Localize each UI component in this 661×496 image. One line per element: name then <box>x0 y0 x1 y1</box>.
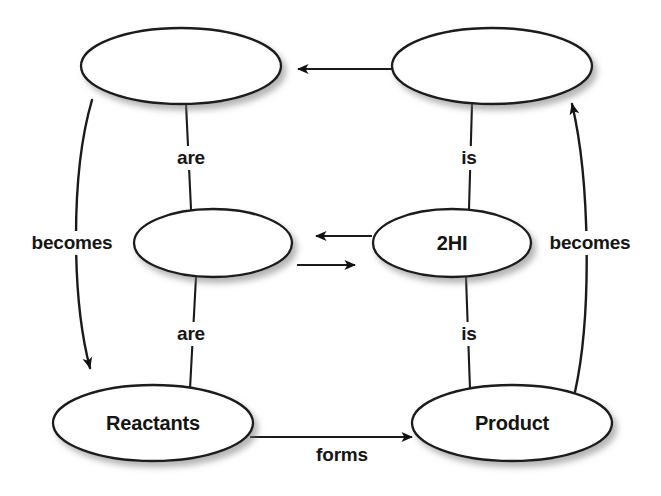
node-ellipse-top-right[interactable] <box>392 28 592 104</box>
node-ellipse-bottom-left[interactable] <box>53 385 253 461</box>
diagram-canvas: 2HI Reactants Product are is are is beco… <box>0 0 661 496</box>
edge-line-bottom-left-are <box>190 277 196 389</box>
edge-line-top-right-is <box>469 104 472 209</box>
node-ellipse-middle-left[interactable] <box>134 209 292 277</box>
node-ellipse-middle-right[interactable] <box>373 209 531 277</box>
edge-line-bottom-right-is <box>466 277 470 389</box>
node-ellipse-top-left[interactable] <box>81 28 281 104</box>
edge-curve-left-becomes <box>76 100 92 368</box>
edge-line-top-left-are <box>186 104 191 209</box>
node-shapes <box>53 28 612 461</box>
concept-map-graphic <box>0 0 661 496</box>
node-ellipse-bottom-right[interactable] <box>412 385 612 461</box>
edge-curve-right-becomes <box>572 104 587 392</box>
